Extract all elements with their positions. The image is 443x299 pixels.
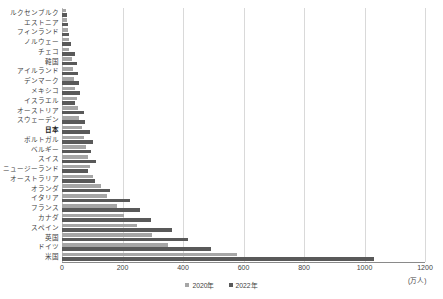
legend-swatch-icon bbox=[229, 283, 233, 287]
horizontal-bar-chart: ルクセンブルクエストニアフィンランドノルウェーチェコ韓国アイルランドデンマークメ… bbox=[0, 0, 443, 299]
bar-2020 bbox=[62, 18, 67, 22]
x-tick-label: 200 bbox=[117, 264, 129, 271]
bar-2022 bbox=[62, 91, 80, 95]
category-label: ベルギー bbox=[31, 146, 59, 153]
bar-2020 bbox=[62, 145, 86, 149]
bar-row: フランス bbox=[62, 203, 425, 213]
bar-row: ノルウェー bbox=[62, 37, 425, 47]
legend-label: 2022年 bbox=[236, 280, 258, 290]
bar-row: ニュージーランド bbox=[62, 164, 425, 174]
bar-2020 bbox=[62, 214, 124, 218]
bar-2022 bbox=[62, 111, 84, 115]
bar-2020 bbox=[62, 77, 74, 81]
x-tick-label: 1000 bbox=[357, 264, 373, 271]
category-label: 韓国 bbox=[45, 58, 59, 65]
bar-2020 bbox=[62, 9, 66, 13]
bar-row: イタリア bbox=[62, 194, 425, 204]
bar-row: オーストラリア bbox=[62, 174, 425, 184]
bar-2022 bbox=[62, 179, 95, 183]
bar-2022 bbox=[62, 62, 77, 66]
bar-2020 bbox=[62, 87, 75, 91]
x-tick-label: 800 bbox=[298, 264, 310, 271]
bar-2020 bbox=[62, 28, 68, 32]
category-label: フィンランド bbox=[17, 29, 59, 36]
bar-2020 bbox=[62, 184, 101, 188]
category-label: 英国 bbox=[45, 234, 59, 241]
bar-2020 bbox=[62, 253, 237, 257]
x-axis-ticks: 020040060080010001200 bbox=[62, 264, 425, 276]
x-tick-label: 0 bbox=[60, 264, 64, 271]
bar-2022 bbox=[62, 33, 69, 37]
category-label: スイス bbox=[38, 156, 59, 163]
category-label: ポルトガル bbox=[24, 137, 59, 144]
bar-2022 bbox=[62, 150, 91, 154]
bar-row: カナダ bbox=[62, 213, 425, 223]
category-label: イスラエル bbox=[24, 98, 59, 105]
bar-2020 bbox=[62, 194, 107, 198]
bar-row: オランダ bbox=[62, 184, 425, 194]
category-label: オーストラリア bbox=[10, 176, 59, 183]
bar-row: メキシコ bbox=[62, 86, 425, 96]
bar-2022 bbox=[62, 160, 96, 164]
bar-row: チェコ bbox=[62, 47, 425, 57]
bar-2020 bbox=[62, 38, 69, 42]
bar-row: ドイツ bbox=[62, 242, 425, 252]
category-label: 日本 bbox=[45, 127, 59, 134]
legend-swatch-icon bbox=[185, 283, 189, 287]
bar-2020 bbox=[62, 155, 88, 159]
bar-row: ベルギー bbox=[62, 145, 425, 155]
bar-2020 bbox=[62, 224, 137, 228]
gridline-1200 bbox=[425, 8, 426, 262]
category-label: カナダ bbox=[38, 215, 59, 222]
bar-rows: ルクセンブルクエストニアフィンランドノルウェーチェコ韓国アイルランドデンマークメ… bbox=[62, 8, 425, 262]
bar-2022 bbox=[62, 169, 88, 173]
bar-row: 米国 bbox=[62, 252, 425, 262]
category-label: ルクセンブルク bbox=[10, 10, 59, 17]
category-label: スペイン bbox=[31, 225, 59, 232]
bar-2020 bbox=[62, 165, 90, 169]
bar-row: ポルトガル bbox=[62, 135, 425, 145]
legend-item[interactable]: 2022年 bbox=[229, 280, 258, 290]
plot-area: ルクセンブルクエストニアフィンランドノルウェーチェコ韓国アイルランドデンマークメ… bbox=[62, 8, 425, 262]
category-label: エストニア bbox=[24, 19, 59, 26]
category-label: メキシコ bbox=[31, 88, 59, 95]
bar-row: イスラエル bbox=[62, 96, 425, 106]
bar-row: 韓国 bbox=[62, 57, 425, 67]
bar-2022 bbox=[62, 81, 79, 85]
category-label: ドイツ bbox=[38, 244, 59, 251]
category-label: 米国 bbox=[45, 254, 59, 261]
bar-2020 bbox=[62, 106, 78, 110]
legend-label: 2020年 bbox=[192, 280, 214, 290]
x-axis-line bbox=[62, 262, 425, 263]
category-label: デンマーク bbox=[24, 78, 59, 85]
bar-2022 bbox=[62, 130, 90, 134]
category-label: アイルランド bbox=[17, 68, 59, 75]
bar-2020 bbox=[62, 126, 82, 130]
bar-row: スペイン bbox=[62, 223, 425, 233]
category-label: オランダ bbox=[31, 185, 59, 192]
bar-row: アイルランド bbox=[62, 67, 425, 77]
category-label: ニュージーランド bbox=[3, 166, 59, 173]
bar-2022 bbox=[62, 199, 130, 203]
bar-2022 bbox=[62, 101, 75, 105]
bar-2020 bbox=[62, 136, 84, 140]
bar-row: 英国 bbox=[62, 233, 425, 243]
bar-2022 bbox=[62, 140, 93, 144]
bar-row: ルクセンブルク bbox=[62, 8, 425, 18]
bar-row: 日本 bbox=[62, 125, 425, 135]
bar-2022 bbox=[62, 189, 110, 193]
category-label: オーストリア bbox=[17, 107, 59, 114]
x-tick-label: 400 bbox=[177, 264, 189, 271]
category-label: フランス bbox=[31, 205, 59, 212]
bar-row: フィンランド bbox=[62, 28, 425, 38]
bar-2020 bbox=[62, 48, 69, 52]
bar-row: スイス bbox=[62, 155, 425, 165]
bar-2022 bbox=[62, 52, 75, 56]
bar-2020 bbox=[62, 97, 77, 101]
bar-row: エストニア bbox=[62, 18, 425, 28]
bar-row: オーストリア bbox=[62, 106, 425, 116]
legend-item[interactable]: 2020年 bbox=[185, 280, 214, 290]
bar-2022 bbox=[62, 218, 151, 222]
bar-row: デンマーク bbox=[62, 76, 425, 86]
bar-2022 bbox=[62, 42, 71, 46]
